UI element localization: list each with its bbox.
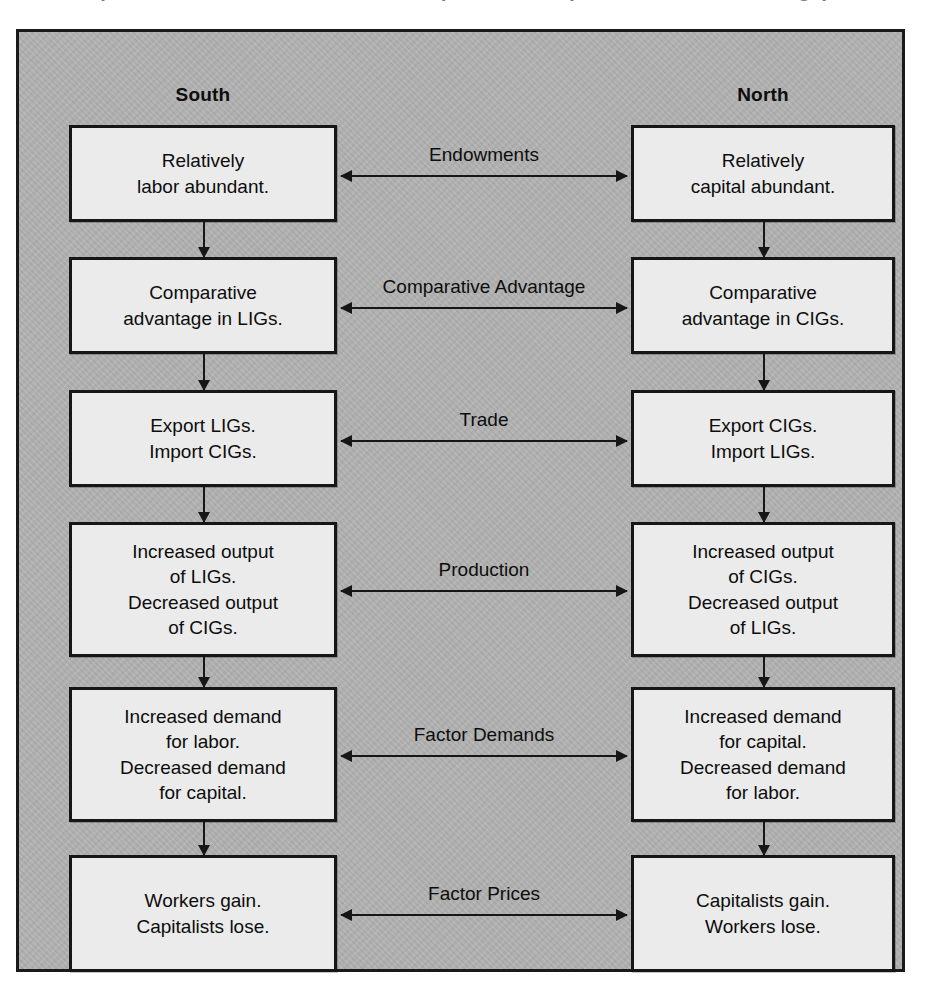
node-south-factor-prices[interactable]: Workers gain. Capitalists lose.	[69, 855, 337, 972]
node-text: Increased output of CIGs. Decreased outp…	[688, 539, 838, 639]
down-arrow-icon-north-3	[763, 487, 765, 522]
node-text: Comparative advantage in LIGs.	[123, 280, 283, 330]
down-arrow-icon-south-5	[203, 822, 205, 855]
node-text: Relatively labor abundant.	[137, 148, 269, 198]
double-arrow-icon-factor-prices	[341, 914, 627, 916]
double-arrow-icon-factor-demands	[341, 755, 627, 757]
down-arrow-icon-north-1	[763, 222, 765, 257]
node-text: Increased demand for capital. Decreased …	[680, 704, 846, 804]
node-text: Export LIGs. Import CIGs.	[149, 413, 257, 463]
node-text: Workers gain. Capitalists lose.	[136, 888, 269, 938]
figure-canvas: (The North–South Trade Model: Impacts on…	[0, 0, 927, 996]
double-arrow-icon-endowments	[341, 175, 627, 177]
node-text: Capitalists gain. Workers lose.	[696, 888, 830, 938]
node-north-trade[interactable]: Export CIGs. Import LIGs.	[631, 390, 895, 487]
diagram-panel: South North Relatively labor abundant. R…	[16, 29, 905, 972]
node-north-endowments[interactable]: Relatively capital abundant.	[631, 125, 895, 222]
connector-label-factor-prices: Factor Prices	[341, 883, 627, 905]
node-south-production[interactable]: Increased output of LIGs. Decreased outp…	[69, 522, 337, 657]
figure-title-remnant: (The North–South Trade Model: Impacts on…	[0, 0, 927, 4]
node-north-comparative-advantage[interactable]: Comparative advantage in CIGs.	[631, 257, 895, 354]
down-arrow-icon-north-5	[763, 822, 765, 855]
node-text: Relatively capital abundant.	[691, 148, 836, 198]
double-arrow-icon-trade	[341, 440, 627, 442]
node-south-endowments[interactable]: Relatively labor abundant.	[69, 125, 337, 222]
connector-label-trade: Trade	[341, 409, 627, 431]
column-header-south: South	[69, 84, 337, 106]
down-arrow-icon-south-1	[203, 222, 205, 257]
down-arrow-icon-north-2	[763, 354, 765, 390]
node-text: Export CIGs. Import LIGs.	[709, 413, 818, 463]
node-north-production[interactable]: Increased output of CIGs. Decreased outp…	[631, 522, 895, 657]
node-south-factor-demands[interactable]: Increased demand for labor. Decreased de…	[69, 687, 337, 822]
node-north-factor-demands[interactable]: Increased demand for capital. Decreased …	[631, 687, 895, 822]
node-text: Comparative advantage in CIGs.	[682, 280, 845, 330]
down-arrow-icon-south-4	[203, 657, 205, 687]
node-text: Increased output of LIGs. Decreased outp…	[128, 539, 278, 639]
down-arrow-icon-south-3	[203, 487, 205, 522]
node-south-comparative-advantage[interactable]: Comparative advantage in LIGs.	[69, 257, 337, 354]
double-arrow-icon-comparative-advantage	[341, 307, 627, 309]
node-north-factor-prices[interactable]: Capitalists gain. Workers lose.	[631, 855, 895, 972]
down-arrow-icon-south-2	[203, 354, 205, 390]
node-text: Increased demand for labor. Decreased de…	[120, 704, 286, 804]
connector-label-production: Production	[341, 559, 627, 581]
double-arrow-icon-production	[341, 590, 627, 592]
node-south-trade[interactable]: Export LIGs. Import CIGs.	[69, 390, 337, 487]
column-header-north: North	[631, 84, 895, 106]
connector-label-endowments: Endowments	[341, 144, 627, 166]
connector-label-factor-demands: Factor Demands	[341, 724, 627, 746]
connector-label-comparative-advantage: Comparative Advantage	[319, 276, 649, 298]
down-arrow-icon-north-4	[763, 657, 765, 687]
